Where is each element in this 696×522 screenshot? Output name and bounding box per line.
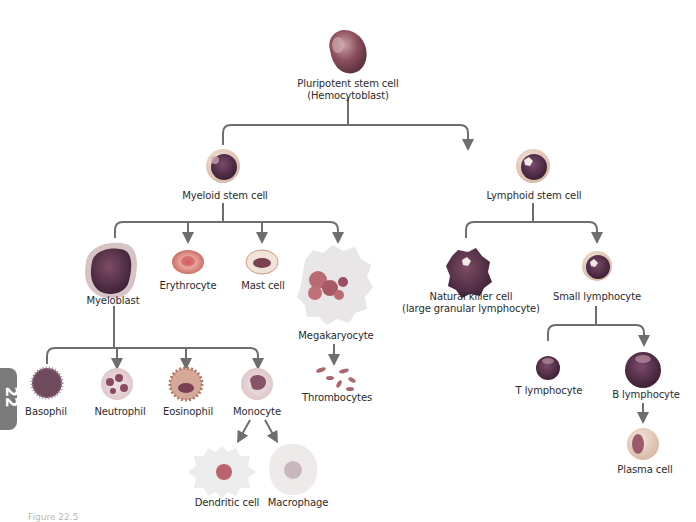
- figure-caption: Figure 22.5: [28, 512, 78, 522]
- label-plasma-cell: Plasma cell: [617, 464, 672, 476]
- label-small-lymphocyte: Small lymphocyte: [553, 291, 641, 303]
- chapter-number: 22: [2, 387, 20, 408]
- label-myeloblast: Myeloblast: [87, 295, 140, 307]
- label-basophil: Basophil: [25, 406, 67, 418]
- label-t-lymphocyte: T lymphocyte: [516, 385, 583, 397]
- label-mast-cell: Mast cell: [241, 280, 284, 292]
- lymphoid-stem-cell: [516, 149, 550, 183]
- erythrocyte-cell: [172, 250, 204, 274]
- label-eosinophil: Eosinophil: [163, 406, 213, 418]
- label-line2: (large granular lymphocyte): [402, 303, 540, 315]
- label-line2: (Hemocytoblast): [297, 90, 398, 102]
- label-thrombocytes: Thrombocytes: [302, 392, 372, 404]
- label-macrophage: Macrophage: [268, 497, 329, 509]
- eosinophil-cell: [170, 368, 202, 400]
- macrophage-cell: [269, 444, 317, 495]
- label-dendritic-cell: Dendritic cell: [195, 497, 260, 509]
- thrombocytes: [316, 366, 357, 391]
- hemocytoblast-cell: [329, 30, 366, 74]
- neutrophil-cell: [101, 368, 133, 400]
- label-lymphoid-stem-cell: Lymphoid stem cell: [486, 190, 581, 202]
- label-hemocytoblast: Pluripotent stem cell (Hemocytoblast): [297, 78, 398, 102]
- label-monocyte: Monocyte: [233, 406, 281, 418]
- label-nk-cell: Natural killer cell (large granular lymp…: [402, 291, 540, 315]
- small-lymphocyte-cell: [582, 251, 612, 281]
- label-megakaryocyte: Megakaryocyte: [298, 330, 373, 342]
- label-erythrocyte: Erythrocyte: [159, 280, 216, 292]
- megakaryocyte-cell: [297, 245, 373, 325]
- label-myeloid-stem-cell: Myeloid stem cell: [182, 190, 268, 202]
- hematopoiesis-diagram: Pluripotent stem cell (Hemocytoblast) My…: [0, 0, 696, 522]
- b-lymphocyte-cell: [625, 352, 661, 388]
- t-lymphocyte-cell: [536, 356, 560, 380]
- mast-cell: [246, 250, 278, 274]
- label-b-lymphocyte: B lymphocyte: [612, 389, 680, 401]
- basophil-cell: [32, 368, 62, 398]
- label-line1: Natural killer cell: [402, 291, 540, 303]
- plasma-cell: [627, 428, 659, 460]
- chapter-tab: 22: [0, 368, 17, 430]
- label-neutrophil: Neutrophil: [94, 406, 145, 418]
- label-line1: Pluripotent stem cell: [297, 78, 398, 90]
- myeloid-stem-cell: [206, 149, 240, 183]
- monocyte-cell: [241, 368, 273, 400]
- dendritic-cell: [188, 446, 256, 498]
- myeloblast-cell: [85, 243, 137, 299]
